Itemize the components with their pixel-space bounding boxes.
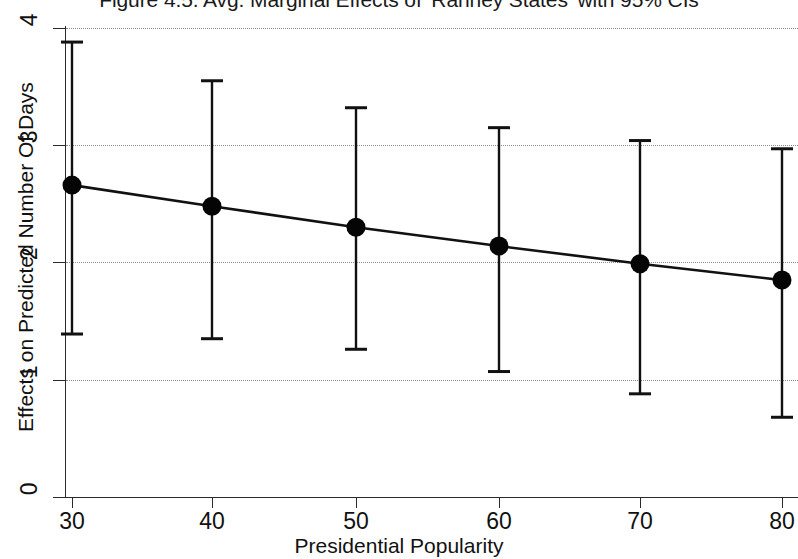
gridline-y1 [66, 380, 798, 381]
y-tick-mark-4 [53, 28, 65, 29]
x-tick-mark-50 [356, 498, 357, 508]
figure-container: Figure 4.5. Avg. Marginal Effects of 'Ra… [0, 0, 798, 559]
x-tick-label-60: 60 [469, 508, 529, 534]
x-tick-mark-40 [212, 498, 213, 508]
y-tick-mark-0 [53, 497, 65, 498]
x-tick-label-30: 30 [42, 508, 102, 534]
x-axis-line [65, 497, 798, 498]
x-tick-mark-80 [782, 498, 783, 508]
x-tick-label-70: 70 [610, 508, 670, 534]
x-axis-title: Presidential Popularity [0, 534, 798, 558]
gridline-y3 [66, 145, 798, 146]
x-tick-mark-30 [72, 498, 73, 508]
chart-title: Figure 4.5. Avg. Marginal Effects of 'Ra… [0, 0, 798, 13]
x-tick-mark-70 [640, 498, 641, 508]
y-tick-mark-3 [53, 145, 65, 146]
plot-area [66, 28, 798, 497]
x-tick-label-50: 50 [326, 508, 386, 534]
y-axis-line [65, 26, 66, 498]
gridline-y4 [66, 28, 798, 29]
y-axis-title: Effects on Predicted Number Of Days [14, 12, 38, 502]
y-tick-mark-1 [53, 380, 65, 381]
x-tick-label-40: 40 [182, 508, 242, 534]
gridline-y2 [66, 262, 798, 263]
x-tick-mark-60 [499, 498, 500, 508]
y-tick-mark-2 [53, 262, 65, 263]
x-tick-label-80: 80 [752, 508, 798, 534]
